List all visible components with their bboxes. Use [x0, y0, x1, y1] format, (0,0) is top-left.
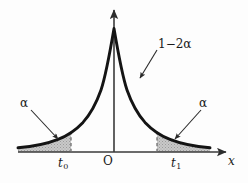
figure-canvas: [0, 0, 248, 183]
central-area-leader-line: [140, 50, 157, 78]
right-alpha-leader-line: [175, 110, 201, 139]
t1-subscript: 1: [176, 162, 182, 171]
left-tail-alpha-label: α: [20, 97, 28, 109]
t0-subscript: 0: [63, 162, 69, 171]
t0-axis-label: t0: [58, 157, 68, 171]
t1-axis-label: t1: [171, 157, 181, 171]
origin-label: O: [103, 155, 113, 167]
right-tail-alpha-label: α: [199, 97, 207, 109]
normal-distribution-figure: α α 1−2α t0 t1 O x: [0, 0, 248, 183]
central-area-label: 1−2α: [158, 38, 191, 50]
x-axis-label: x: [228, 155, 235, 167]
left-alpha-leader-line: [31, 110, 58, 139]
